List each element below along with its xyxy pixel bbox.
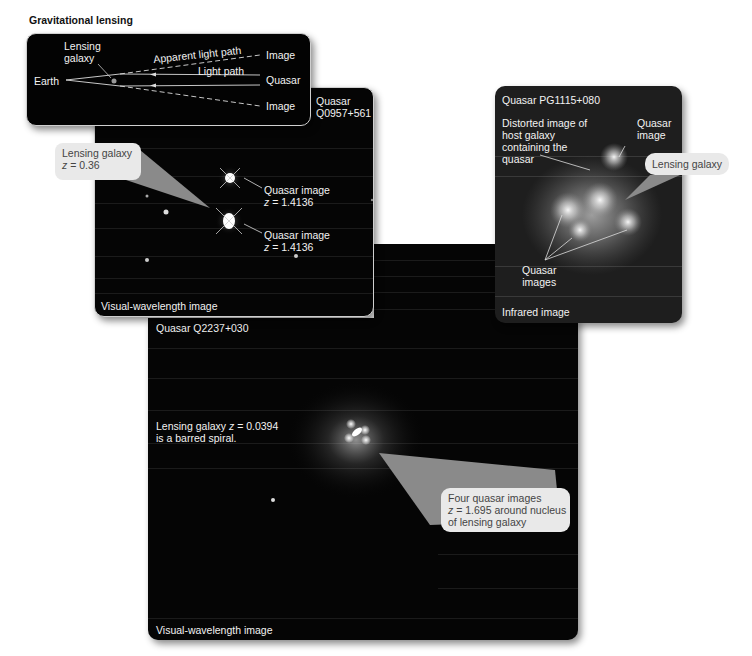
diagram-lensing-galaxy-label: Lensing galaxy [64, 40, 101, 64]
diagram-image-bottom-label: Image [266, 100, 295, 112]
diagram-light-path-label: Light path [198, 65, 244, 77]
diagram-earth-label: Earth [34, 75, 59, 87]
diagram-image-top-label: Image [266, 49, 295, 61]
lensing-diagram-graphics [0, 0, 752, 656]
diagram-quasar-label: Quasar [266, 74, 300, 86]
